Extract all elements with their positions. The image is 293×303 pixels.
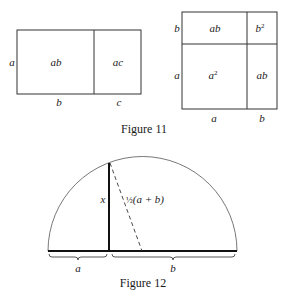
cell-top-right-label: b2	[256, 22, 266, 34]
cell-ab-label: ab	[51, 56, 63, 68]
cell-top-left-label: ab	[210, 22, 222, 34]
cell-bottom-right-label: ab	[257, 69, 269, 81]
figure11-left-diagram: ab ac a b c	[9, 30, 141, 108]
figures-canvas: ab ac a b c ab b2 a2 ab b a a b Figure 1…	[0, 0, 293, 303]
radius-dashed-line	[110, 163, 142, 251]
side-b-label: b	[174, 22, 180, 34]
side-a-label: a	[9, 56, 15, 68]
bottom-a-label: a	[211, 112, 217, 124]
figure11-caption: Figure 11	[121, 122, 167, 136]
figure11-right-diagram: ab b2 a2 ab b a a b	[174, 12, 277, 124]
side-a-label: a	[174, 69, 180, 81]
segment-a-label: a	[75, 262, 81, 274]
bottom-b-label: b	[259, 112, 265, 124]
radius-label: ½(a + b)	[126, 193, 164, 206]
height-x-label: x	[100, 193, 106, 205]
brace-b	[112, 254, 235, 260]
segment-b-label: b	[170, 262, 176, 274]
cell-bottom-left-label: a2	[209, 69, 219, 81]
brace-a	[49, 254, 107, 260]
figure12-caption: Figure 12	[120, 276, 166, 290]
bottom-c-label: c	[117, 96, 122, 108]
figure12-diagram: x ½(a + b) a b	[48, 156, 237, 274]
cell-ac-label: ac	[113, 56, 124, 68]
bottom-b-label: b	[56, 96, 62, 108]
